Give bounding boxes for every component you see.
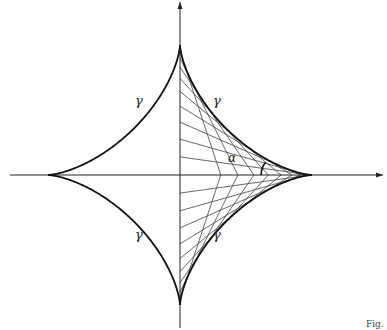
y-axis-arrow-icon xyxy=(178,2,183,9)
gamma-label-lower-right: γ xyxy=(213,228,221,241)
x-axis-arrow-icon xyxy=(376,173,383,178)
gamma-label-lower-left: γ xyxy=(135,228,143,241)
envelope-segment xyxy=(180,157,311,175)
astroid-diagram xyxy=(0,0,387,330)
gamma-label-upper-right: γ xyxy=(213,94,221,107)
figure-caption: Fig. xyxy=(366,320,384,329)
alpha-label: α xyxy=(228,152,236,164)
gamma-label-upper-left: γ xyxy=(135,94,143,107)
envelope-segment xyxy=(180,175,311,193)
astroid-figure: γ γ γ γ α Fig. xyxy=(0,0,387,330)
